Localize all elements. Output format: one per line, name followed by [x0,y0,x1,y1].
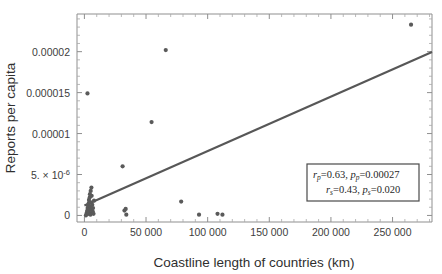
y-tick-label: 0.00001 [32,128,70,140]
data-point [197,213,201,217]
y-tick-label: 0 [64,209,70,221]
data-point [91,212,95,216]
y-tick-label: 0.00002 [32,46,70,58]
y-axis-title: Reports per capita [3,62,18,173]
data-point [215,212,219,216]
data-point [91,206,95,210]
x-tick-label: 100 000 [189,226,227,238]
data-point [179,199,183,203]
data-point [89,186,93,190]
x-tick-label: 250 000 [374,226,412,238]
data-point [85,91,89,95]
x-axis-title: Coastline length of countries (km) [153,255,354,270]
data-point [220,213,224,217]
data-point [409,23,413,27]
data-point [92,199,96,203]
scatter-plot-figure: 050 000100 000150 000200 000250 000 05. … [0,0,442,274]
data-point [124,207,128,211]
x-tick-label: 50 000 [130,226,162,238]
pearson-p-value: =0.00027 [359,169,399,180]
spearman-p-value: =0.020 [371,184,401,195]
pearson-r-value: =0.63, [321,169,351,180]
data-point [124,213,128,217]
data-point [149,120,153,124]
x-tick-label: 200 000 [312,226,350,238]
x-axis-tick-labels: 050 000100 000150 000200 000250 000 [81,226,411,238]
data-point [164,48,168,52]
y-tick-label: 0.000015 [26,87,70,99]
statistics-annotation-box: rp=0.63, pp=0.00027 rs=0.43, ps=0.020 [307,164,419,201]
data-point [90,194,94,198]
x-tick-label: 150 000 [250,226,288,238]
y-axis-tick-labels: 05. × 10-60.000010.0000150.00002 [26,46,70,222]
spearman-r-value: =0.43, [333,184,363,195]
plot-canvas: 050 000100 000150 000200 000250 000 05. … [0,0,442,274]
y-tick-label: 5. × 10-6 [31,168,70,181]
data-point [121,164,125,168]
x-tick-label: 0 [81,226,87,238]
